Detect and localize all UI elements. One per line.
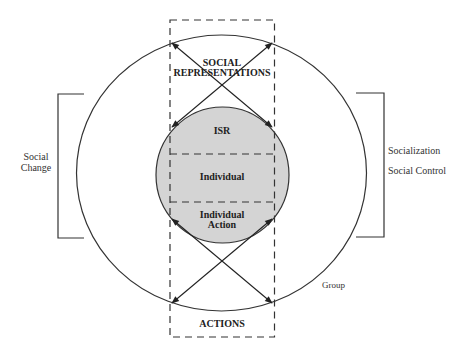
- actions-label: ACTIONS: [199, 318, 245, 329]
- isr-label: ISR: [214, 125, 231, 136]
- social-control-label: Social Control: [388, 165, 446, 176]
- diagram-canvas: SOCIAL REPRESENTATIONS ISR Individual In…: [0, 0, 463, 353]
- social-change-label-2: Change: [21, 162, 52, 173]
- right-bracket: [356, 93, 384, 237]
- group-label: Group: [322, 280, 345, 290]
- socialization-label: Socialization: [388, 145, 440, 156]
- social-representations-label-2: REPRESENTATIONS: [174, 67, 271, 78]
- social-change-label-1: Social: [24, 151, 49, 162]
- individual-label: Individual: [200, 171, 245, 182]
- left-bracket: [58, 94, 84, 238]
- individual-action-label-2: Action: [208, 219, 237, 230]
